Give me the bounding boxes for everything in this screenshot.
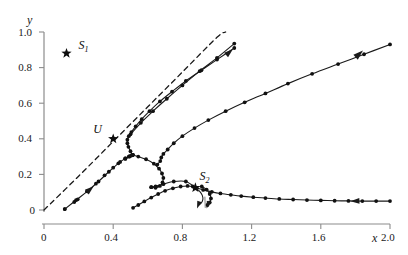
data-point-marker [107, 170, 111, 174]
data-point-marker [118, 160, 122, 164]
data-point-marker [125, 138, 129, 142]
data-point-marker [155, 163, 159, 167]
data-point-marker [94, 182, 98, 186]
x-tick-label: 0.8 [173, 232, 187, 243]
x-tick-marks [44, 224, 390, 229]
data-point-marker [172, 141, 176, 145]
y-tick-label: 1.0 [18, 27, 32, 38]
data-point-marker [186, 184, 190, 188]
x-tick-label: 1.2 [243, 232, 257, 243]
direction-arrows-group [85, 49, 363, 208]
data-point-marker [333, 199, 337, 203]
data-point-marker [208, 192, 212, 196]
data-point-marker [125, 141, 129, 145]
data-point-marker [319, 198, 323, 202]
x-tick-label: 1.6 [312, 232, 326, 243]
data-point-marker [161, 182, 165, 186]
data-point-marker [388, 199, 392, 203]
data-point-marker [127, 145, 131, 149]
flow-direction-arrow [85, 186, 94, 194]
y-tick-label: 0.4 [18, 133, 32, 144]
y-axis-name: y [27, 14, 32, 26]
data-point-marker [144, 157, 148, 161]
data-point-marker [243, 100, 247, 104]
annotation-label-S2: S2 [199, 170, 209, 185]
data-point-marker [310, 72, 314, 76]
data-point-marker [232, 46, 236, 50]
flow-direction-arrow [350, 198, 359, 204]
data-point-marker [251, 195, 255, 199]
data-point-marker [149, 196, 153, 200]
data-point-marker [129, 132, 133, 136]
data-point-marker [166, 148, 170, 152]
data-point-marker [142, 200, 146, 204]
data-point-marker [161, 152, 165, 156]
series-line-fold-upper-return [127, 48, 234, 155]
data-point-marker [291, 198, 295, 202]
data-point-marker [184, 180, 188, 184]
data-point-marker [136, 203, 140, 207]
data-point-marker [219, 192, 223, 196]
data-point-marker [131, 206, 135, 210]
data-point-marker [198, 69, 202, 73]
y-tick-label: 0.6 [18, 98, 32, 109]
data-point-marker [336, 62, 340, 66]
data-point-marker [172, 180, 176, 184]
data-point-marker [181, 134, 185, 138]
data-point-marker [264, 92, 268, 96]
data-point-marker [215, 56, 219, 60]
data-point-marker [347, 199, 351, 203]
data-point-marker [193, 126, 197, 130]
data-point-marker [171, 186, 175, 190]
data-point-marker [374, 199, 378, 203]
data-point-marker [209, 197, 213, 201]
data-point-marker [388, 43, 392, 47]
data-point-marker [123, 156, 127, 160]
data-point-marker [103, 173, 107, 177]
data-point-marker [305, 198, 309, 202]
x-tick-label: 0.4 [104, 232, 118, 243]
y-tick-marks [39, 32, 44, 210]
data-point-marker [111, 166, 115, 170]
data-point-marker [72, 200, 76, 204]
x-tick-label: 0 [41, 232, 47, 243]
data-point-marker [158, 100, 162, 104]
data-point-marker [165, 97, 169, 101]
equilibrium-star-S1 [61, 48, 71, 58]
data-point-marker [229, 193, 233, 197]
data-point-marker [206, 118, 210, 122]
flow-direction-arrow [197, 201, 202, 209]
data-point-marker [264, 196, 268, 200]
data-point-marker [205, 188, 209, 192]
data-point-marker [130, 153, 134, 157]
data-point-marker [152, 162, 156, 166]
data-point-marker [158, 159, 162, 163]
annotation-label-U: U [93, 123, 102, 135]
data-point-marker [160, 172, 164, 176]
data-point-marker [129, 149, 133, 153]
data-point-marker [136, 155, 140, 159]
data-point-marker [149, 185, 153, 189]
data-point-marker [179, 185, 183, 189]
data-point-marker [63, 207, 67, 211]
equilibrium-markers-group [61, 48, 200, 192]
data-point-marker [159, 156, 163, 160]
data-point-marker [157, 167, 161, 171]
annotation-label-S1-subscript: 1 [84, 46, 88, 55]
data-point-marker [232, 42, 236, 46]
y-tick-label: 0.2 [18, 169, 32, 180]
data-point-marker [362, 52, 366, 56]
plot-svg [0, 0, 408, 255]
equilibrium-star-U [108, 133, 118, 143]
y-tick-label: 0.8 [18, 62, 32, 73]
data-point-marker [277, 197, 281, 201]
y-tick-label: 0 [29, 205, 35, 216]
data-point-marker [224, 109, 228, 113]
data-point-marker [163, 189, 167, 193]
x-axis-name: x [372, 232, 377, 244]
data-point-marker [156, 192, 160, 196]
data-point-marker [200, 185, 204, 189]
x-tick-label: 2.0 [381, 232, 395, 243]
data-point-marker [286, 82, 290, 86]
data-point-marker [139, 121, 143, 125]
